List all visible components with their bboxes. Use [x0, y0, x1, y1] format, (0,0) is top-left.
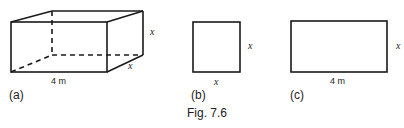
- figure-7-6: x x 4 m (a) x x (b) x 4 m (c) Fig. 7.6: [0, 0, 404, 128]
- square-bottom-label: x: [214, 76, 218, 87]
- panel-c-label: (c): [290, 88, 304, 102]
- rectangle-side-label: x: [396, 40, 400, 51]
- rectangle-drawing: [291, 21, 387, 72]
- cuboid-drawing: [11, 11, 143, 72]
- square-side-label: x: [248, 40, 252, 51]
- cuboid-hidden-edges: [11, 11, 143, 72]
- figure-caption: Fig. 7.6: [187, 106, 227, 120]
- panel-a-label: (a): [9, 88, 24, 102]
- cuboid-depth-label: x: [128, 60, 132, 71]
- cuboid-length-label: 4 m: [51, 76, 66, 86]
- cuboid-front-face: [11, 22, 107, 72]
- square-drawing: [193, 22, 240, 72]
- panel-b-label: (b): [191, 88, 206, 102]
- rectangle-bottom-label: 4 m: [330, 76, 345, 86]
- cuboid-height-label: x: [150, 26, 154, 37]
